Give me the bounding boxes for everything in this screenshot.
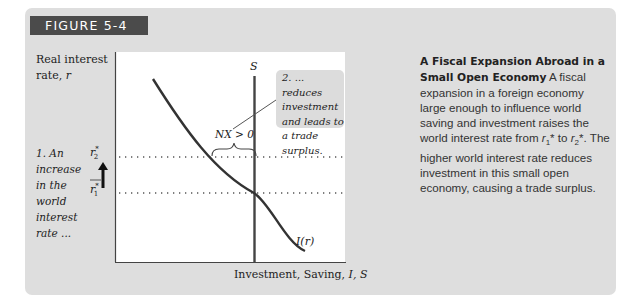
annotation-callout: 2. ... reduces investment and leads to a… [276, 70, 344, 128]
r1-sup: * [95, 182, 99, 190]
nx-brace [212, 143, 256, 156]
r1-tick-label: r*1 [90, 182, 98, 198]
callout-line: 2. ... reduces [282, 72, 322, 98]
annotation-line: world [36, 195, 66, 207]
annotation-line: rate ... [36, 227, 71, 239]
annotation-increase: 1. An increase in the world interest rat… [36, 145, 81, 241]
annotation-line: 1. An [36, 147, 64, 159]
x-axis-label-text: Investment, Saving, [234, 268, 349, 281]
r2-sup: * [95, 145, 99, 153]
caption-mid: * to [550, 131, 571, 144]
annotation-line: in the [36, 179, 67, 191]
x-axis-vars: I, S [349, 268, 368, 281]
callout-line: investment [282, 101, 338, 112]
figure-caption: A Fiscal Expansion Abroad in a Small Ope… [420, 53, 610, 195]
nx-label: NX > 0 [215, 128, 254, 140]
annotation-line: increase [36, 163, 81, 175]
investment-curve-label: I(r) [296, 235, 314, 248]
r2-tick-label: r*2 [90, 145, 98, 161]
saving-curve-label: S [250, 60, 258, 73]
r1-sub: 1 [94, 190, 98, 198]
x-axis-label: Investment, Saving, I, S [234, 268, 346, 281]
annotation-line: interest [36, 211, 77, 223]
callout-line: and leads to [282, 116, 344, 127]
increase-arrow-head [98, 162, 108, 170]
r2-sub: 2 [94, 153, 98, 161]
